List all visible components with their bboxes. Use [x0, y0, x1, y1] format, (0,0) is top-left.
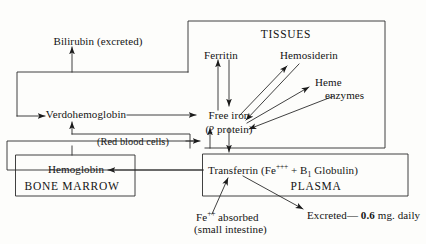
transferrin-middle: + B	[288, 164, 307, 176]
tissues-compartment-label: TISSUES	[261, 28, 311, 40]
plasma-compartment-label: PLASMA	[291, 180, 342, 192]
bilirubin-node-label: Bilirubin (excreted)	[53, 36, 142, 48]
absorbed-iron-suffix: absorbed	[215, 211, 258, 223]
heme-enzymes-node-label-line1: Heme	[315, 77, 342, 89]
hemosiderin-to-free-iron-arrow	[246, 64, 299, 120]
absorbed-iron-label-line1: Fe++ absorbed	[196, 210, 259, 223]
red-blood-cells-node-label: (Red blood cells)	[97, 137, 169, 148]
free-iron-to-hemosiderin-arrow	[240, 66, 287, 115]
absorbed-iron-label-line2: (small intestine)	[194, 224, 267, 236]
excreted-amount: 0.6	[361, 209, 375, 221]
bone-marrow-compartment-label: BONE MARROW	[25, 180, 120, 192]
heme-enzymes-node-label-line2: enzymes	[325, 90, 364, 102]
excreted-iron-label: Excreted— 0.6 mg. daily	[307, 210, 420, 222]
excreted-prefix: Excreted—	[307, 209, 361, 221]
ferritin-node-label: Ferritin	[204, 50, 238, 62]
heme-enzymes-to-free-iron-arrow	[249, 96, 334, 129]
iron-metabolism-diagram: TISSUES PLASMA BONE MARROW Bilirubin (ex…	[0, 0, 426, 244]
hemoglobin-node-label: Hemoglobin	[48, 164, 104, 176]
transferrin-prefix: Transferrin (Fe	[208, 164, 276, 176]
absorbed-iron-prefix: Fe	[196, 211, 207, 223]
free-iron-node-label-line1: Free iron	[209, 110, 250, 122]
transferrin-node-label: Transferrin (Fe+++ + B1 Globulin)	[208, 163, 358, 179]
free-iron-node-label-line2: (? protein)	[205, 124, 252, 136]
excreted-suffix: mg. daily	[375, 209, 420, 221]
transferrin-suffix: Globulin)	[311, 164, 358, 176]
transferrin-ferric-charge: +++	[276, 162, 288, 171]
verdohemoglobin-node-label: Verdohemoglobin	[46, 109, 126, 121]
hemosiderin-node-label: Hemosiderin	[280, 50, 338, 62]
